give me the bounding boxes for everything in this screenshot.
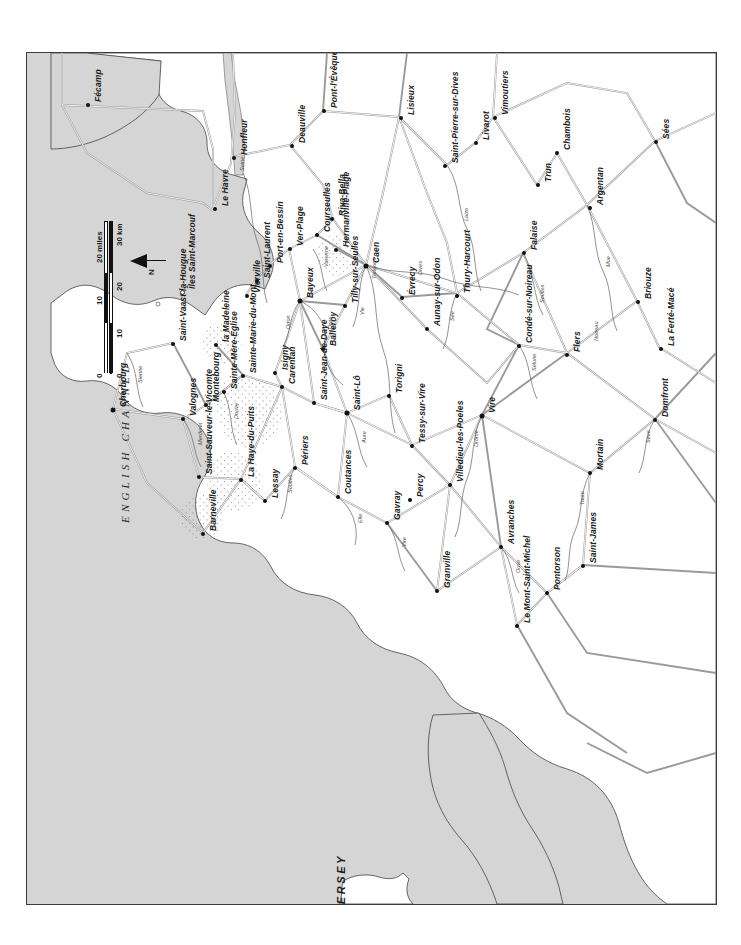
- town-dot: [659, 347, 663, 351]
- town-dot: [493, 116, 497, 120]
- town-dot: [536, 183, 540, 187]
- town-dot: [448, 483, 452, 487]
- town-dot: [588, 471, 592, 475]
- town-dot: [336, 495, 340, 499]
- town-dot: [343, 304, 347, 308]
- town-dot: [499, 545, 503, 549]
- town-dot: [293, 466, 297, 470]
- map-frame: 0 10 20 miles 0 10 20 30 km N ENGLISH CH…: [26, 52, 717, 905]
- town-dot: [321, 347, 325, 351]
- town-dot: [315, 233, 319, 237]
- scale-bar-miles: [104, 221, 108, 373]
- island-dot: [180, 290, 185, 295]
- town-dot: [213, 207, 217, 211]
- town-dot: [268, 264, 272, 268]
- town-dot: [171, 342, 175, 346]
- town-dot: [111, 408, 116, 413]
- town-dot: [653, 418, 657, 422]
- town-dot: [654, 140, 658, 144]
- scale-bar-km: [109, 221, 113, 373]
- town-dot: [636, 300, 640, 304]
- town-dot: [581, 564, 585, 568]
- town-dot: [345, 411, 350, 416]
- town-dot: [280, 385, 284, 389]
- map-canvas: [27, 53, 716, 904]
- town-dot: [555, 151, 559, 155]
- jersey-island: [339, 873, 413, 904]
- town-dot: [222, 390, 226, 394]
- town-dot: [201, 532, 205, 536]
- town-dot: [408, 498, 412, 502]
- town-dot: [387, 394, 391, 398]
- north-arrow: [130, 253, 176, 269]
- town-dot: [455, 294, 459, 298]
- town-dot: [263, 499, 267, 503]
- town-dot: [181, 417, 185, 421]
- town-dot: [443, 164, 447, 168]
- town-dot: [330, 217, 334, 221]
- town-dot: [517, 344, 521, 348]
- town-dot: [480, 414, 485, 419]
- town-dot: [588, 206, 592, 210]
- town-dot: [385, 521, 389, 525]
- town-dot: [298, 299, 303, 304]
- town-dot: [545, 591, 549, 595]
- town-dot: [515, 624, 519, 628]
- town-dot: [204, 403, 208, 407]
- town-dot: [312, 401, 316, 405]
- town-dot: [364, 264, 369, 269]
- town-dot: [334, 248, 338, 252]
- scale-bar: [104, 221, 113, 373]
- town-dot: [273, 371, 277, 375]
- town-dot: [400, 296, 404, 300]
- town-dot: [255, 279, 259, 283]
- town-dot: [241, 374, 245, 378]
- town-dot: [474, 141, 478, 145]
- town-dot: [214, 343, 218, 347]
- town-dot: [322, 109, 326, 113]
- town-dot: [197, 475, 201, 479]
- map-page: 0 10 20 miles 0 10 20 30 km N ENGLISH CH…: [0, 0, 741, 945]
- town-dot: [245, 294, 249, 298]
- town-dot: [565, 353, 569, 357]
- iles-saint-marcouf: [156, 302, 160, 306]
- town-dot: [290, 144, 294, 148]
- town-dot: [435, 589, 439, 593]
- town-dot: [522, 251, 526, 255]
- north-arrow-shaft: [144, 260, 166, 261]
- town-dot: [425, 327, 429, 331]
- town-dot: [288, 247, 292, 251]
- town-dot: [410, 444, 414, 448]
- town-dot: [399, 116, 403, 120]
- town-dot: [239, 478, 243, 482]
- town-dot: [232, 156, 236, 160]
- town-dot: [86, 103, 90, 107]
- north-arrow-head: [130, 254, 147, 268]
